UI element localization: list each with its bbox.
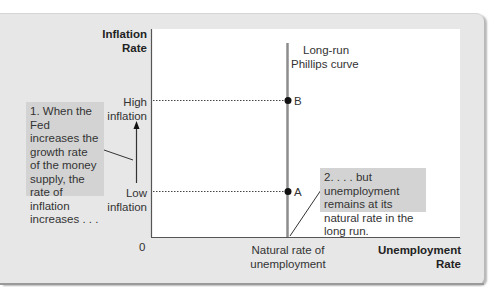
y-axis-title-line1: Inflation (96, 27, 147, 41)
x-tick-natural-rate: Natural rate of unemployment (236, 243, 340, 271)
x-tick-natural-line2: unemployment (236, 257, 340, 271)
y-axis-title-line2: Rate (96, 41, 147, 55)
x-axis-title-line2: Rate (372, 257, 461, 271)
y-axis-title: Inflation Rate (96, 27, 147, 55)
origin-label: 0 (139, 240, 145, 254)
x-tick-natural-line1: Natural rate of (236, 243, 340, 257)
curve-label-line2: Phillips curve (291, 57, 381, 71)
x-axis-title: Unemployment Rate (372, 243, 461, 271)
point-b-label: B (294, 94, 302, 108)
curve-label-line1: Long-run (291, 43, 381, 57)
point-a-marker (285, 188, 292, 195)
annotation-box-1: 1. When the Fed increases the growth rat… (26, 102, 104, 196)
curve-label: Long-run Phillips curve (291, 43, 381, 71)
point-a-label: A (294, 185, 302, 199)
x-axis-title-line1: Unemployment (372, 243, 461, 257)
annotation1-leader (104, 150, 133, 160)
annotation-box-2: 2. . . . but unemployment remains at its… (320, 168, 426, 212)
y-tick-low-line2: inflation (95, 200, 147, 214)
point-b-marker (285, 97, 292, 104)
